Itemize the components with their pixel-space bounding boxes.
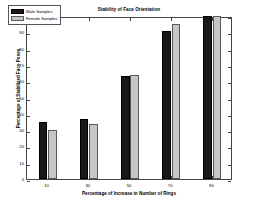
legend-label: Female Samples: [26, 16, 57, 21]
bar-female-samples-70: [172, 24, 181, 179]
y-tick-mark-right: [228, 116, 231, 117]
x-tick-mark-top: [89, 18, 90, 21]
x-tick-mark: [130, 176, 131, 179]
x-tick-label: 10: [37, 183, 57, 188]
x-tick-label: 90: [201, 183, 221, 188]
x-tick-mark-top: [212, 18, 213, 21]
x-tick-label: 70: [160, 183, 180, 188]
y-tick-mark-right: [228, 181, 231, 182]
legend-item-male-samples: Male Samples: [11, 9, 57, 15]
y-tick-mark: [27, 116, 30, 117]
y-tick-mark: [27, 83, 30, 84]
legend-swatch-icon: [11, 9, 24, 14]
plot-area: [26, 17, 232, 180]
bar-male-samples-30: [80, 119, 89, 179]
bars-layer: [27, 18, 231, 179]
y-tick-label: 0: [22, 178, 24, 182]
x-tick-label: 30: [78, 183, 98, 188]
legend-label: Male Samples: [26, 9, 53, 14]
chart-legend: Male SamplesFemale Samples: [8, 5, 61, 25]
y-tick-mark: [27, 67, 30, 68]
x-tick-mark: [212, 176, 213, 179]
x-tick-mark-top: [130, 18, 131, 21]
y-tick-mark-right: [228, 34, 231, 35]
y-axis-title: Percentage of Stabilized Face Poses: [16, 19, 21, 159]
y-tick-mark-right: [228, 51, 231, 52]
legend-swatch-icon: [11, 16, 24, 21]
y-tick-mark: [27, 165, 30, 166]
y-tick-mark-right: [228, 100, 231, 101]
bar-female-samples-50: [130, 75, 139, 179]
y-tick-mark-right: [228, 165, 231, 166]
y-tick-label: 10: [19, 162, 24, 166]
bar-female-samples-30: [89, 124, 98, 179]
x-tick-mark: [48, 176, 49, 179]
y-tick-mark-right: [228, 18, 231, 19]
y-tick-mark-right: [228, 67, 231, 68]
y-tick-mark-right: [228, 83, 231, 84]
y-tick-mark: [27, 132, 30, 133]
x-axis-title: Percentage of Increase in Number of Ring…: [26, 191, 232, 196]
legend-item-female-samples: Female Samples: [11, 15, 57, 21]
x-tick-mark: [89, 176, 90, 179]
y-tick-mark: [27, 148, 30, 149]
bar-male-samples-50: [121, 76, 130, 179]
bar-male-samples-10: [39, 122, 48, 179]
chart-figure: Stability of Face Orientation 0102030405…: [0, 0, 253, 210]
y-tick-mark: [27, 100, 30, 101]
y-tick-mark: [27, 51, 30, 52]
x-tick-mark: [171, 176, 172, 179]
y-tick-mark: [27, 181, 30, 182]
bar-male-samples-90: [203, 16, 212, 179]
bar-male-samples-70: [162, 31, 171, 179]
x-tick-mark-top: [171, 18, 172, 21]
y-tick-mark-right: [228, 148, 231, 149]
bar-female-samples-90: [213, 16, 222, 179]
y-tick-mark-right: [228, 132, 231, 133]
y-tick-mark: [27, 34, 30, 35]
bar-female-samples-10: [48, 130, 57, 179]
x-tick-label: 50: [119, 183, 139, 188]
